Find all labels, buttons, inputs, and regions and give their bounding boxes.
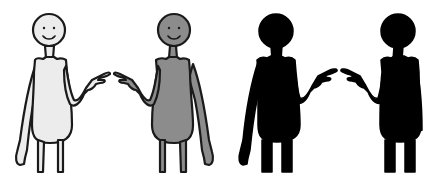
figure-light: [16, 14, 110, 172]
pointing-figures-illustration: [0, 0, 435, 177]
figure-black-right: [341, 14, 422, 172]
figure-black-left: [239, 14, 337, 172]
figure-grey: [114, 14, 213, 172]
illustration-canvas: [0, 0, 435, 177]
